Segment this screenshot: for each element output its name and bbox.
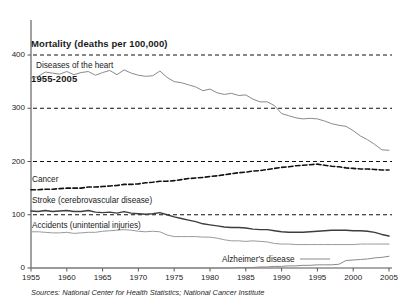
x-tick-label-1960: 1960 [50, 273, 84, 282]
plot-area [0, 0, 406, 307]
x-tick-label-1985: 1985 [229, 273, 263, 282]
x-tick-label-2005: 2005 [372, 273, 406, 282]
x-tick-label-1955: 1955 [14, 273, 48, 282]
series-line-accidents-unintential-injuries [31, 230, 389, 245]
y-tick-label-0: 0 [3, 263, 25, 272]
mortality-line-chart: Mortality (deaths per 100,000) 1955-2005… [0, 0, 406, 307]
x-tick-label-1975: 1975 [157, 273, 191, 282]
x-tick-label-1980: 1980 [193, 273, 227, 282]
source-note: Sources: National Center for Health Stat… [31, 288, 264, 297]
series-label-cancer: Cancer [32, 175, 58, 184]
series-label-alzheimers: Alzheimer's disease [222, 255, 295, 264]
y-tick-label-100: 100 [3, 210, 25, 219]
x-tick-label-1990: 1990 [265, 273, 299, 282]
series-label-stroke: Stroke (cerebrovascular disease) [32, 196, 152, 205]
series-line-alzheimer-s-disease [31, 256, 389, 268]
series-label-heart: Diseases of the heart [36, 61, 113, 70]
x-tick-label-1970: 1970 [121, 273, 155, 282]
x-tick-label-1965: 1965 [86, 273, 120, 282]
y-tick-label-300: 300 [3, 103, 25, 112]
y-tick-label-400: 400 [3, 50, 25, 59]
y-tick-label-200: 200 [3, 157, 25, 166]
series-line-cancer [31, 164, 389, 190]
series-line-diseases-of-the-heart [31, 70, 389, 150]
x-tick-label-2000: 2000 [336, 273, 370, 282]
x-tick-label-1995: 1995 [300, 273, 334, 282]
series-label-accidents: Accidents (unintential injuries) [32, 221, 141, 230]
